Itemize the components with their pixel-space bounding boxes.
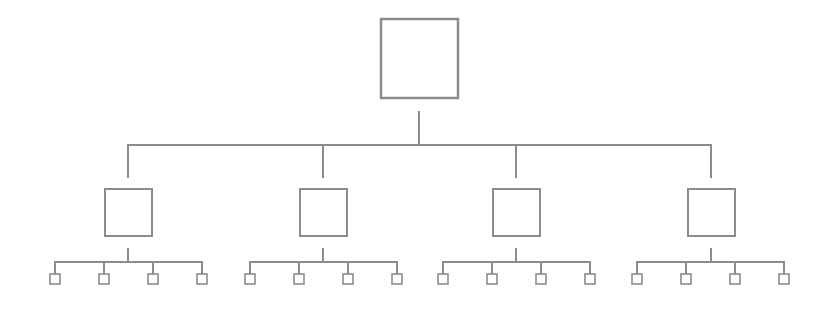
leaf-box <box>50 274 60 284</box>
leaf-box <box>392 274 402 284</box>
leaf-box <box>438 274 448 284</box>
leaf-node <box>681 262 691 284</box>
child-box <box>688 189 735 236</box>
leaf-node <box>148 262 158 284</box>
leaf-box <box>730 274 740 284</box>
leaf-node <box>245 262 255 284</box>
leaf-node <box>392 262 402 284</box>
child-node-3 <box>438 145 595 284</box>
leaf-node <box>99 262 109 284</box>
leaf-box <box>148 274 158 284</box>
leaf-box <box>487 274 497 284</box>
leaf-box <box>585 274 595 284</box>
tree-structure <box>50 19 789 284</box>
leaf-box <box>294 274 304 284</box>
child-node-1 <box>50 145 207 284</box>
leaf-box <box>536 274 546 284</box>
child-box <box>493 189 540 236</box>
child-box <box>105 189 152 236</box>
leaf-box <box>343 274 353 284</box>
leaf-box <box>779 274 789 284</box>
leaf-node <box>730 262 740 284</box>
leaf-node <box>294 262 304 284</box>
root-box <box>381 19 458 98</box>
child-node-2 <box>245 145 402 284</box>
leaf-node <box>343 262 353 284</box>
leaf-node <box>197 262 207 284</box>
leaf-box <box>632 274 642 284</box>
leaf-node <box>779 262 789 284</box>
leaf-box <box>99 274 109 284</box>
leaf-box <box>245 274 255 284</box>
root-node <box>381 19 458 145</box>
org-tree-diagram <box>0 0 836 312</box>
child-node-4 <box>632 145 789 284</box>
leaf-node <box>536 262 546 284</box>
leaf-box <box>681 274 691 284</box>
leaf-node <box>632 262 642 284</box>
leaf-node <box>438 262 448 284</box>
leaf-node <box>585 262 595 284</box>
leaf-node <box>487 262 497 284</box>
child-box <box>300 189 347 236</box>
leaf-node <box>50 262 60 284</box>
leaf-box <box>197 274 207 284</box>
